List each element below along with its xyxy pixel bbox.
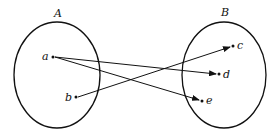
point-e: e [201, 94, 214, 107]
arrow-a-to-e [55, 57, 199, 100]
point-a: a [42, 50, 55, 63]
arrow-b-to-c [78, 47, 230, 97]
point-d: d [218, 68, 231, 81]
point-d-label: d [223, 68, 230, 81]
set-a: A [14, 7, 100, 128]
point-a-dot [52, 56, 55, 59]
set-b-label: B [220, 6, 229, 19]
set-a-label: A [53, 7, 62, 20]
point-d-dot [218, 73, 221, 76]
set-a-ellipse [14, 22, 100, 128]
point-c-dot [232, 45, 235, 48]
arrows [55, 47, 230, 100]
point-e-label: e [206, 94, 213, 107]
mapping-diagram: A B a b c d e [0, 0, 278, 137]
point-c: c [232, 39, 244, 52]
point-b-dot [75, 96, 78, 99]
point-b: b [65, 91, 78, 104]
point-e-dot [201, 100, 204, 103]
point-a-label: a [42, 50, 49, 63]
set-b: B [182, 6, 266, 128]
point-b-label: b [65, 91, 72, 104]
point-c-label: c [237, 39, 243, 52]
